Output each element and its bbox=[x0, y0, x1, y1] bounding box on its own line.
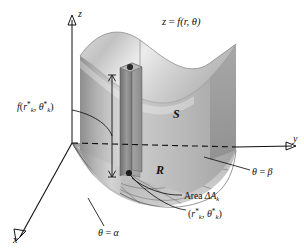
function-value-label: f(r*k, θ*k) bbox=[17, 102, 54, 114]
sample-column-prism bbox=[120, 63, 142, 176]
base-sample-dot bbox=[126, 170, 132, 176]
prism-front-face bbox=[120, 63, 132, 176]
surface-sample-dot bbox=[127, 64, 133, 70]
delta-area-label: Area ΔAk bbox=[184, 192, 219, 202]
y-axis-solid-segment bbox=[236, 146, 292, 147]
theta-alpha-label: θ = α bbox=[98, 228, 119, 238]
surface-region-label: S bbox=[173, 108, 180, 120]
theta-beta-label: θ = β bbox=[252, 167, 273, 177]
polar-double-integral-figure: z = f(r, θ) f(r*k, θ*k) S R Area ΔAk (r*… bbox=[0, 0, 304, 250]
sample-point-label: (r*k, θ*k) bbox=[188, 209, 222, 221]
prism-side-face bbox=[132, 63, 142, 172]
z-axis-label: z bbox=[78, 9, 82, 19]
y-axis-label: y bbox=[293, 134, 297, 144]
leader-theta-alpha bbox=[88, 198, 104, 226]
figure-canvas bbox=[0, 0, 304, 250]
x-axis-label: x bbox=[13, 235, 17, 245]
surface-equation-label: z = f(r, θ) bbox=[162, 17, 201, 28]
base-region-label: R bbox=[156, 164, 164, 176]
x-axis-line bbox=[20, 143, 72, 237]
